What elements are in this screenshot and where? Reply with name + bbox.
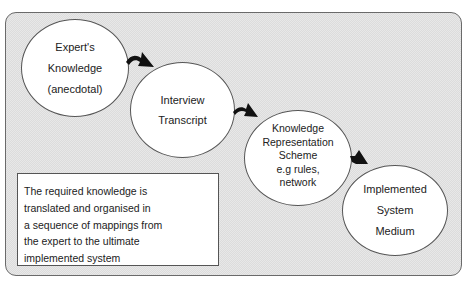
node-label-line: network	[280, 176, 317, 190]
note-line: a sequence of mappings from	[24, 217, 218, 234]
node-label-line: System	[377, 200, 414, 221]
node-label-line: Scheme	[279, 149, 318, 163]
curved-arrow-icon	[124, 50, 156, 72]
node-label-line: Interview	[160, 90, 204, 110]
node-label-line: Expert's	[55, 37, 94, 58]
node-label-line: Transcript	[158, 110, 207, 130]
node-label-line: Implemented	[363, 179, 427, 200]
explanation-note-box: The required knowledge is translated and…	[17, 173, 219, 266]
curved-arrow-icon	[232, 101, 260, 121]
node-label-line: e.g rules,	[276, 163, 319, 177]
note-line: The required knowledge is	[24, 183, 218, 200]
node-knowledge-representation-scheme: Knowledge Representation Scheme e.g rule…	[244, 110, 352, 206]
node-label-line: Knowledge	[272, 122, 324, 136]
node-label-line: Knowledge	[48, 58, 102, 79]
curved-arrow-icon	[350, 148, 370, 166]
note-line: implemented system	[24, 250, 218, 267]
node-label-line: Medium	[375, 221, 414, 242]
node-label-line: (anecdotal)	[47, 79, 102, 100]
node-label-line: Representation	[262, 136, 333, 150]
node-interview-transcript: Interview Transcript	[130, 62, 235, 158]
note-line: translated and organised in	[24, 200, 218, 217]
note-line: the expert to the ultimate	[24, 233, 218, 250]
node-experts-knowledge: Expert's Knowledge (anecdotal)	[21, 19, 129, 117]
node-implemented-system-medium: Implemented System Medium	[342, 165, 448, 256]
